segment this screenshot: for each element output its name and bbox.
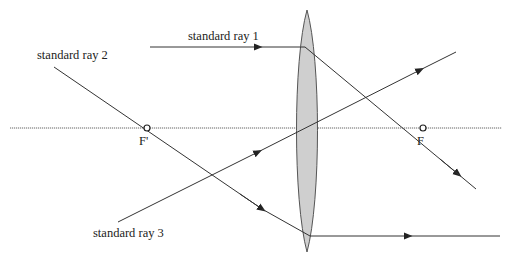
label-ray-2: standard ray 2 — [37, 48, 108, 62]
standard-ray-3 — [118, 52, 456, 222]
label-ray-3: standard ray 3 — [93, 226, 164, 240]
label-focal-back: F — [417, 134, 424, 148]
ray-diagram: standard ray 1 standard ray 2 standard r… — [0, 0, 513, 260]
focal-point-front — [144, 125, 150, 131]
standard-ray-2 — [54, 67, 500, 236]
label-focal-front: F' — [139, 134, 148, 148]
label-ray-1: standard ray 1 — [188, 29, 259, 43]
focal-point-back — [420, 125, 426, 131]
